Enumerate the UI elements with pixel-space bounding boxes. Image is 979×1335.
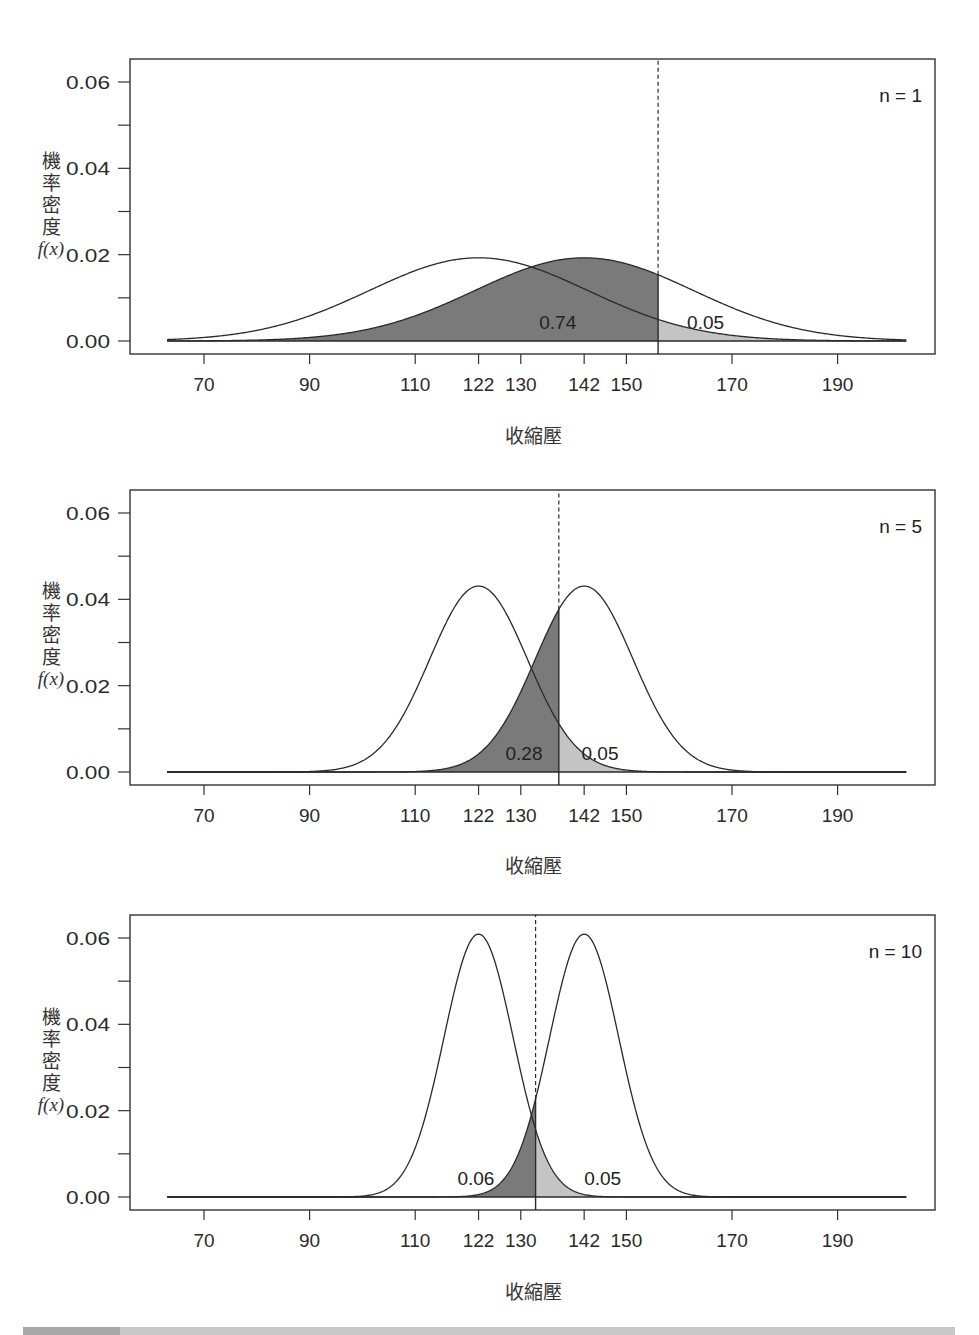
y-tick-label: 0.00 xyxy=(66,1187,110,1208)
x-tick-label: 150 xyxy=(611,1230,643,1251)
power-annotation: 0.06 xyxy=(457,1168,494,1189)
ylabel-fx: f(x) xyxy=(30,1094,72,1116)
caption-tag xyxy=(23,1327,120,1335)
y-tick-label: 0.04 xyxy=(66,1014,111,1035)
ylabel-char: 密 xyxy=(30,1050,72,1072)
y-axis-label: 機 率 密 度 f(x) xyxy=(30,1006,72,1116)
x-tick-label: 142 xyxy=(568,1230,600,1251)
y-tick-label: 0.06 xyxy=(66,928,110,949)
x-tick-label: 170 xyxy=(716,1230,748,1251)
x-tick-label: 110 xyxy=(400,1230,430,1251)
sample-size-label: n = 10 xyxy=(869,941,922,962)
x-tick-label: 130 xyxy=(505,1230,537,1251)
y-tick-label: 0.02 xyxy=(66,1101,110,1122)
x-tick-label: 122 xyxy=(463,1230,495,1251)
x-tick-label: 70 xyxy=(193,1230,214,1251)
x-axis-label: 收縮壓 xyxy=(0,1277,979,1304)
caption-bar xyxy=(23,1327,955,1335)
ylabel-char: 機 xyxy=(30,1006,72,1028)
x-tick-label: 190 xyxy=(822,1230,854,1251)
chart-panel-n10: 0.000.020.040.06709011012213014215017019… xyxy=(0,0,979,1300)
ylabel-char: 率 xyxy=(30,1028,72,1050)
alpha-annotation: 0.05 xyxy=(584,1168,621,1189)
ylabel-char: 度 xyxy=(30,1072,72,1094)
density-plot: 0.000.020.040.06709011012213014215017019… xyxy=(0,0,979,1300)
x-tick-label: 90 xyxy=(299,1230,320,1251)
